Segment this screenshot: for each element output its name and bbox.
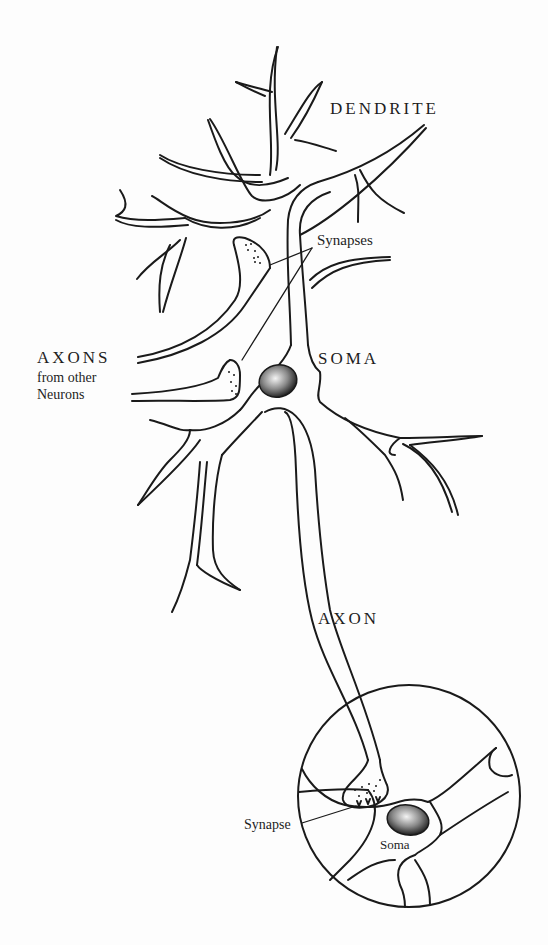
dendrite-label: DENDRITE <box>330 100 439 117</box>
incoming-axon-upper <box>138 237 270 363</box>
axon-label: AXON <box>318 610 379 627</box>
axons-label: AXONS <box>37 349 111 366</box>
vesicles-inset <box>354 779 381 797</box>
dendrite-right-upper <box>310 257 390 288</box>
incoming-axon-lower <box>132 360 240 401</box>
soma-label: SOMA <box>318 350 379 367</box>
neuron-diagram: DENDRITE Synapses AXONS from other Neuro… <box>0 0 548 945</box>
synapse-leader-line <box>302 806 356 823</box>
dendrite-lower-left <box>138 410 262 612</box>
main-axon <box>265 408 380 760</box>
synapse-label: Synapse <box>244 818 291 832</box>
synapses-label: Synapses <box>317 233 373 248</box>
inset-soma-label: Soma <box>380 838 410 851</box>
soma-nucleus <box>256 361 301 402</box>
synapses-leader-lines <box>242 248 312 360</box>
axons-sub-label-1: from other <box>37 370 96 385</box>
axons-sub-label-2: Neurons <box>37 387 84 402</box>
inset-soma-nucleus <box>385 802 432 839</box>
inset-circle <box>298 685 520 907</box>
neuron-illustration <box>0 0 548 945</box>
vesicles-lower <box>228 371 237 395</box>
dendrite-tree <box>116 47 426 345</box>
